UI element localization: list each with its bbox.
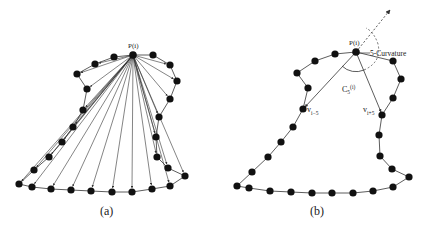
contour-point	[349, 189, 356, 196]
contour-point	[233, 182, 240, 189]
contour-point	[87, 187, 94, 194]
center-point	[129, 51, 137, 59]
contour-point	[173, 77, 180, 84]
panel-a-caption: (a)	[100, 204, 113, 218]
panel-b-points	[233, 48, 412, 196]
contour-point	[110, 53, 117, 60]
contour-point	[83, 85, 90, 92]
contour-point	[149, 51, 156, 58]
panel-b-contour	[237, 52, 409, 193]
contour-point	[28, 183, 35, 190]
ray-arrow	[133, 55, 167, 164]
contour-point	[166, 61, 173, 68]
contour-point	[299, 105, 306, 112]
contour-point	[69, 123, 76, 130]
panel-a-rays	[22, 55, 184, 188]
figure-canvas: P(i) (a) P(i) 5-Curvature C5(i) vi−5 vi+…	[0, 0, 421, 233]
contour-point	[331, 50, 338, 57]
ray-arrow	[132, 55, 133, 188]
contour-point	[405, 173, 412, 180]
contour-point	[304, 84, 311, 91]
ray-arrow	[34, 55, 133, 184]
contour-point	[30, 166, 37, 173]
contour-point	[47, 185, 54, 192]
contour-point	[266, 187, 273, 194]
ray-arrow	[53, 55, 133, 186]
panel-a: P(i) (a)	[15, 42, 188, 218]
contour-path	[237, 52, 409, 193]
tangent-dashed-arrow	[356, 10, 390, 52]
contour-point	[91, 60, 98, 67]
contour-point	[155, 113, 162, 120]
contour-point	[166, 95, 173, 102]
contour-point	[369, 187, 376, 194]
contour-point	[128, 188, 135, 195]
ray-arrow	[73, 55, 133, 186]
ray-arrow	[90, 55, 133, 87]
contour-point	[58, 138, 65, 145]
contour-point	[389, 183, 396, 190]
contour-point	[388, 165, 395, 172]
contour-point	[376, 152, 383, 159]
contour-point	[389, 94, 396, 101]
contour-point	[293, 69, 300, 76]
contour-point	[108, 188, 115, 195]
contour-point	[389, 57, 396, 64]
contour-point	[67, 186, 74, 193]
contour-point	[79, 106, 86, 113]
contour-point	[397, 75, 404, 82]
contour-point	[328, 189, 335, 196]
curvature-label: 5-Curvature	[370, 49, 407, 58]
panel-b-caption: (b)	[310, 204, 324, 218]
center-point	[352, 48, 360, 56]
contour-point	[277, 138, 284, 145]
ray-arrow	[92, 55, 133, 187]
contour-point	[311, 57, 318, 64]
contour-point	[287, 188, 294, 195]
contour-point	[248, 168, 255, 175]
vector-to-v-plus	[356, 52, 381, 112]
contour-point	[152, 133, 159, 140]
contour-point	[148, 185, 155, 192]
v-plus-label: vi+5	[363, 105, 375, 116]
panel-a-center-label: P(i)	[128, 42, 139, 50]
contour-point	[45, 153, 52, 160]
contour-point	[73, 70, 80, 77]
panel-b: P(i) 5-Curvature C5(i) vi−5 vi+5 (b)	[233, 10, 412, 218]
contour-point	[378, 111, 385, 118]
contour-point	[15, 180, 22, 187]
contour-point	[164, 164, 171, 171]
ray-arrow	[133, 55, 169, 182]
v-minus-label: vi−5	[307, 105, 319, 116]
contour-point	[181, 172, 188, 179]
contour-point	[308, 189, 315, 196]
contour-point	[166, 182, 173, 189]
angle-label: C5(i)	[342, 84, 355, 95]
contour-point	[375, 131, 382, 138]
panel-b-center-label: P(i)	[349, 39, 360, 47]
contour-point	[245, 184, 252, 191]
ray-arrow	[133, 55, 151, 185]
contour-point	[153, 153, 160, 160]
angle-arc	[342, 66, 364, 72]
contour-point	[289, 123, 296, 130]
contour-point	[264, 153, 271, 160]
